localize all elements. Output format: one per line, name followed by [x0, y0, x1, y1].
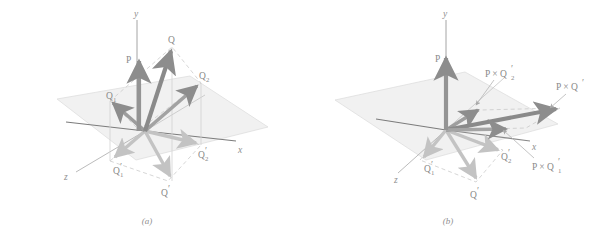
axis-label-x: x [237, 145, 243, 155]
label-P-cross-Q1-prime-base: P × Q [532, 162, 554, 172]
axis-label-x: x [531, 142, 537, 152]
caption-b: (b) [443, 216, 454, 226]
axis-label-z: z [63, 172, 68, 182]
panel-b-diagram: y x z P P × Q 2 ′ P × Q ′ P × Q 1 ′ Q 1 [298, 0, 595, 236]
label-Q2-prime-sub: 2 [205, 155, 209, 162]
label-Q1-prime-sub: 1 [431, 169, 434, 176]
axis-label-y: y [442, 9, 448, 19]
label-P-cross-Q-prime-base: P × Q [556, 82, 578, 92]
vector-P-cross-Q1-prime [446, 129, 506, 130]
label-P-cross-Q2-prime: P × Q 2 ′ [485, 64, 515, 81]
label-P: P [435, 54, 440, 64]
label-Q1-sub: 1 [113, 96, 116, 103]
axis-label-z: z [393, 175, 398, 185]
label-Q2-prime: Q 2 ′ [198, 146, 209, 162]
label-P-cross-Q-prime-mark: ′ [582, 78, 584, 88]
label-Q-prime-mark: ′ [477, 186, 479, 196]
label-P-cross-Q2-prime-sub: 2 [511, 74, 515, 81]
label-Q1-prime-base: Q [424, 164, 431, 174]
label-Q-prime-mark: ′ [168, 184, 170, 194]
panel-a-diagram: y x z P Q Q 1 Q 2 Q 1 ′ Q 2 ′ [0, 0, 297, 236]
label-Q-prime: Q ′ [161, 184, 170, 198]
label-Q1-prime-sub: 1 [120, 171, 123, 178]
label-Q2-prime-sub: 2 [508, 157, 512, 164]
label-Q2-prime-mark: ′ [205, 146, 207, 156]
label-Q2-prime-mark: ′ [508, 148, 510, 158]
label-Q1-prime: Q 1 ′ [113, 162, 123, 178]
label-Q1-prime-base: Q [113, 166, 120, 176]
label-P-cross-Q1-prime-sub: 1 [558, 167, 561, 174]
label-Q-prime-base: Q [470, 190, 477, 200]
label-Q1-prime-mark: ′ [431, 160, 433, 170]
label-Q2-prime-base: Q [501, 152, 508, 162]
label-P: P [126, 55, 131, 65]
label-Q2-sub: 2 [206, 76, 210, 83]
leader-P-cross-Q-prime [550, 94, 566, 108]
label-P-cross-Q1-prime: P × Q 1 ′ [532, 157, 561, 174]
label-P-cross-Q1-prime-mark: ′ [558, 157, 560, 167]
label-Q1-base: Q [106, 91, 113, 101]
label-Q-prime-base: Q [161, 188, 168, 198]
label-Q2: Q 2 [199, 71, 210, 83]
panel-a: y x z P Q Q 1 Q 2 Q 1 ′ Q 2 ′ [0, 0, 297, 236]
label-Q: Q [168, 35, 175, 45]
label-Q1-prime-mark: ′ [120, 162, 122, 172]
label-P-cross-Q-prime: P × Q ′ [556, 78, 584, 92]
caption-a: (a) [142, 216, 153, 226]
label-Q-prime: Q ′ [470, 186, 479, 200]
panel-b: y x z P P × Q 2 ′ P × Q ′ P × Q 1 ′ Q 1 [298, 0, 595, 236]
label-P-cross-Q2-prime-mark: ′ [511, 64, 513, 74]
label-P-cross-Q2-prime-base: P × Q [485, 69, 507, 79]
vector-figure: y x z P Q Q 1 Q 2 Q 1 ′ Q 2 ′ [0, 0, 595, 236]
label-Q2-prime-base: Q [198, 150, 205, 160]
axis-label-y: y [133, 9, 139, 19]
label-Q2-base: Q [199, 71, 206, 81]
